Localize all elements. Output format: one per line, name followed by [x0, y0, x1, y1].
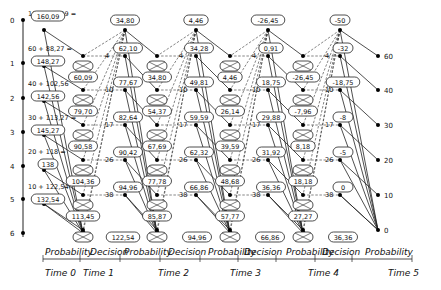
decision-network-diagram: 0123456 60403020100100 + 60,09 =160,0960…: [0, 0, 441, 290]
expected-cost-label: 57,77: [216, 211, 245, 221]
stage0-value: 145,27: [31, 125, 65, 135]
phase-label: Probability: [365, 247, 414, 257]
top-value: -26,45: [251, 15, 285, 25]
value-text: -5: [340, 149, 346, 157]
time-label: Time 3: [230, 268, 261, 278]
value-text: 4,46: [189, 17, 203, 25]
value-text: 34,80: [116, 17, 135, 25]
crossed-value: [73, 165, 93, 175]
expected-cost-label: 36,36: [329, 232, 358, 242]
decision-cost: 26: [325, 156, 333, 164]
value-text: 104,36: [72, 178, 95, 186]
stage0-expression: 30 + 113,27 =: [28, 114, 76, 122]
value-text: -26,45: [258, 17, 279, 25]
decision-cost: 26: [252, 156, 260, 164]
decision-node: [194, 54, 198, 58]
value-text: 31,92: [262, 149, 281, 157]
probability-edge: [340, 160, 378, 230]
state-node: [228, 158, 232, 162]
terminal-node: [376, 54, 380, 58]
decision-value: 62,32: [185, 147, 214, 157]
crossed-value: [220, 61, 240, 71]
top-node: [338, 28, 342, 32]
expected-cost-label: 67,69: [143, 141, 172, 151]
state-node: [81, 88, 85, 92]
axis-tick-dot: [21, 61, 25, 65]
crossed-value: [73, 130, 93, 140]
top-node: [194, 28, 198, 32]
stage0-value: 132,54: [31, 194, 65, 204]
terminal-value: 0: [384, 227, 388, 235]
expected-cost-label: 85,87: [143, 211, 172, 221]
crossed-value: [220, 95, 240, 105]
value-text: 57,77: [221, 213, 240, 221]
crossed-value: [73, 95, 93, 105]
terminal-node: [376, 88, 380, 92]
value-text: 29,88: [262, 114, 281, 122]
expected-cost-label: -7,96: [289, 106, 318, 116]
value-text: 59,59: [190, 114, 209, 122]
decision-cost: 10: [105, 86, 113, 94]
decision-cost: 4: [252, 52, 256, 60]
decision-node: [123, 158, 127, 162]
value-text: 36,36: [262, 184, 281, 192]
top-value: -50: [330, 15, 350, 25]
decision-value: 82,64: [114, 112, 143, 122]
decision-node: [338, 88, 342, 92]
value-text: 0: [341, 184, 345, 192]
value-text: 34,28: [190, 45, 209, 53]
state-node: [155, 123, 159, 127]
decision-value: 0: [333, 182, 353, 192]
crossed-value: [220, 232, 240, 242]
crossed-value: [147, 165, 167, 175]
value-text: -26,45: [293, 74, 314, 82]
state-node: [228, 193, 232, 197]
decision-value: 18,75: [257, 77, 286, 87]
terminal-node: [376, 123, 380, 127]
state-node: [155, 54, 159, 58]
value-text: 77,67: [119, 79, 138, 87]
decision-cost: 17: [325, 121, 333, 129]
value-text: 54,37: [148, 108, 167, 116]
axis-tick-dot: [21, 130, 25, 134]
probability-edge: [340, 90, 378, 230]
stage0-value: 160,09: [31, 11, 65, 21]
state-node: [81, 158, 85, 162]
decision-cost: 17: [252, 121, 260, 129]
state-node: [228, 123, 232, 127]
axis-tick-dot: [21, 18, 25, 22]
crossed-value: [73, 200, 93, 210]
value-text: 18,75: [262, 79, 281, 87]
stage0-value: 148,27: [31, 56, 65, 66]
y-axis-tick: 4: [10, 163, 15, 171]
value-text: -32: [338, 45, 349, 53]
crossed-value: [293, 130, 313, 140]
state-node: [155, 88, 159, 92]
terminal-node: [376, 228, 380, 232]
decision-node: [338, 123, 342, 127]
decision-cost: 26: [179, 156, 187, 164]
value-text: 138: [42, 161, 54, 169]
decision-value: 34,28: [185, 43, 214, 53]
value-text: 145,27: [37, 127, 60, 135]
state-node: [155, 193, 159, 197]
decision-cost: 38: [105, 191, 113, 199]
phase-label: Decision: [244, 247, 283, 257]
decision-node: [338, 158, 342, 162]
time-label: Time 4: [308, 268, 339, 278]
value-text: 67,69: [148, 143, 167, 151]
state-node: [301, 54, 305, 58]
crossed-value: [147, 130, 167, 140]
crossed-value: [293, 200, 313, 210]
crossed-value: [293, 95, 313, 105]
state-node: [228, 88, 232, 92]
decision-cost: 38: [252, 191, 260, 199]
decision-edge: [303, 30, 340, 56]
value-text: 113,45: [72, 213, 95, 221]
y-axis-tick: 5: [10, 196, 14, 204]
value-text: -18,75: [333, 79, 354, 87]
decision-cost: 4: [105, 52, 109, 60]
state-node: [81, 193, 85, 197]
value-text: 77,78: [148, 178, 167, 186]
decision-node: [266, 158, 270, 162]
